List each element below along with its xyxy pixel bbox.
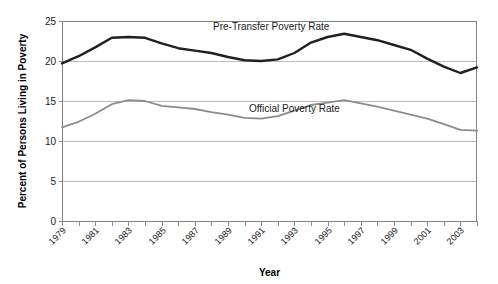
series-annotation-pre-transfer-poverty-rate: Pre-Transfer Poverty Rate <box>213 21 330 32</box>
chart-canvas: 0510152025197919811983198519871989199119… <box>0 0 498 284</box>
ytick-label-25: 25 <box>45 16 57 27</box>
ytick-label-10: 10 <box>45 136 57 147</box>
series-line-pre-transfer-poverty-rate <box>62 34 477 73</box>
xtick-label-1999: 1999 <box>379 225 400 246</box>
xtick-label-1993: 1993 <box>279 225 300 246</box>
xtick-label-1997: 1997 <box>346 225 367 246</box>
xtick-label-2001: 2001 <box>412 225 433 246</box>
poverty-rate-line-chart: 0510152025197919811983198519871989199119… <box>0 0 498 284</box>
ytick-label-0: 0 <box>50 216 56 227</box>
x-axis-title: Year <box>259 267 280 278</box>
ytick-label-5: 5 <box>50 176 56 187</box>
ytick-label-20: 20 <box>45 56 57 67</box>
y-axis-title: Percent of Persons Living in Poverty <box>17 33 28 208</box>
xtick-label-1987: 1987 <box>180 225 201 246</box>
series-annotation-official-poverty-rate: Official Poverty Rate <box>249 103 340 114</box>
xtick-label-1979: 1979 <box>47 225 68 246</box>
xtick-label-1995: 1995 <box>313 225 334 246</box>
xtick-label-1991: 1991 <box>246 225 267 246</box>
xtick-label-2003: 2003 <box>445 225 466 246</box>
xtick-label-1989: 1989 <box>213 225 234 246</box>
xtick-label-1985: 1985 <box>147 225 168 246</box>
ytick-label-15: 15 <box>45 96 57 107</box>
xtick-label-1981: 1981 <box>80 225 101 246</box>
xtick-label-1983: 1983 <box>113 225 134 246</box>
